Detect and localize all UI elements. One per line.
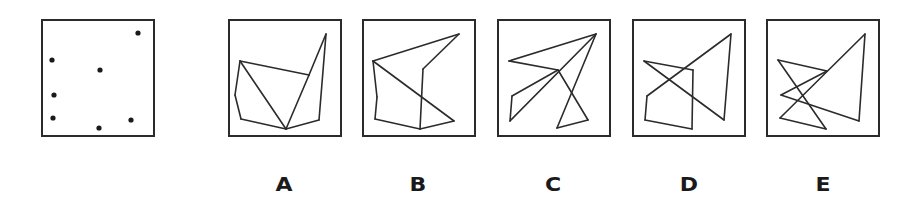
- option-a-figure: [230, 21, 340, 135]
- figure-segment: [286, 75, 309, 129]
- option-a-box[interactable]: [228, 19, 342, 137]
- option-d-label[interactable]: D: [667, 172, 711, 196]
- figure-segment: [780, 34, 865, 118]
- figure-segment: [420, 121, 454, 129]
- figure-segment: [781, 95, 859, 121]
- dot: [97, 67, 102, 72]
- option-c-box[interactable]: [497, 19, 611, 137]
- figure-segment: [645, 96, 647, 120]
- figure-segment: [692, 70, 693, 129]
- figure-segment: [859, 34, 865, 121]
- dot: [50, 115, 55, 120]
- figure-segment: [240, 61, 286, 129]
- figure-segment: [647, 34, 731, 96]
- figure-segment: [420, 69, 423, 129]
- option-e-box[interactable]: [766, 19, 880, 137]
- option-b-box[interactable]: [362, 19, 476, 137]
- question-figure-box: [41, 19, 155, 137]
- option-b-label[interactable]: B: [396, 172, 440, 196]
- dot: [135, 30, 140, 35]
- option-b-figure: [364, 21, 474, 135]
- figure-segment: [509, 61, 558, 70]
- dot: [96, 125, 101, 130]
- dot: [128, 117, 133, 122]
- figure-segment: [644, 61, 724, 120]
- figure-segment: [373, 61, 454, 121]
- option-c-figure: [499, 21, 609, 135]
- figure-segment: [510, 96, 512, 121]
- figure-segment: [240, 61, 309, 75]
- figure-segment: [557, 120, 588, 128]
- option-a-label[interactable]: A: [262, 172, 306, 196]
- figure-segment: [724, 34, 731, 120]
- figure-segment: [645, 120, 692, 129]
- figure-segment: [558, 70, 588, 120]
- figure-segment: [375, 97, 377, 119]
- figure-segment: [235, 95, 241, 119]
- figure-segment: [557, 34, 596, 128]
- figure-segment: [235, 61, 240, 95]
- figure-segment: [286, 120, 319, 129]
- figure-segment: [373, 61, 377, 97]
- option-e-label[interactable]: E: [801, 172, 845, 196]
- option-d-figure: [634, 21, 744, 135]
- option-e-figure: [768, 21, 878, 135]
- dot: [49, 57, 54, 62]
- reference-dots: [43, 21, 153, 135]
- option-c-label[interactable]: C: [531, 172, 575, 196]
- figure-segment: [512, 70, 558, 96]
- dot: [51, 92, 56, 97]
- option-d-box[interactable]: [632, 19, 746, 137]
- figure-segment: [375, 119, 420, 129]
- figure-segment: [241, 119, 286, 129]
